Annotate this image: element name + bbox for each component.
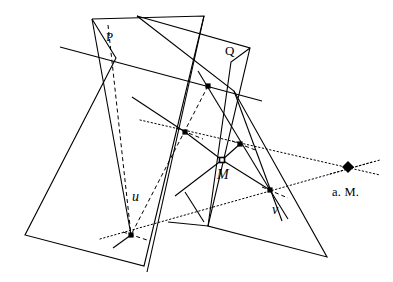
dotted-lines-group [100, 120, 380, 239]
node-mid-right-dot [237, 141, 242, 146]
dashed-lowerleft-tick [123, 232, 150, 241]
line-q-left-edge [147, 16, 204, 272]
node-upper-mid-dot [205, 83, 210, 88]
line-u-extension [113, 235, 131, 248]
solid-lines-group [60, 16, 288, 272]
ray-from-upper-dot-down [198, 71, 270, 190]
chord-mid-to-center [185, 132, 222, 160]
point-markers-group [128, 83, 354, 237]
node-lower-left-dot [128, 232, 133, 237]
point-m-label: M [217, 168, 229, 182]
node-center-m [220, 158, 225, 163]
line-v-label: v [272, 203, 278, 217]
chord-upper-to-mid [132, 97, 185, 132]
node-lower-right-dot [267, 187, 272, 192]
plane-q-label: Q [225, 44, 234, 57]
figure-canvas [0, 0, 393, 282]
plane-p-label: P [106, 30, 113, 43]
bracket-short [185, 192, 204, 222]
absolute-point-label: a. M. [332, 186, 359, 199]
dashed-lines-group [108, 25, 288, 241]
node-absolute-point [342, 161, 354, 173]
chord-center-to-lowerright [222, 160, 270, 190]
dashed-p-to-lowerleft [108, 25, 131, 235]
geometric-figure: P Q u v M a. M. [0, 0, 393, 282]
node-mid-left-dot [182, 129, 187, 134]
line-u-label: u [132, 190, 139, 204]
